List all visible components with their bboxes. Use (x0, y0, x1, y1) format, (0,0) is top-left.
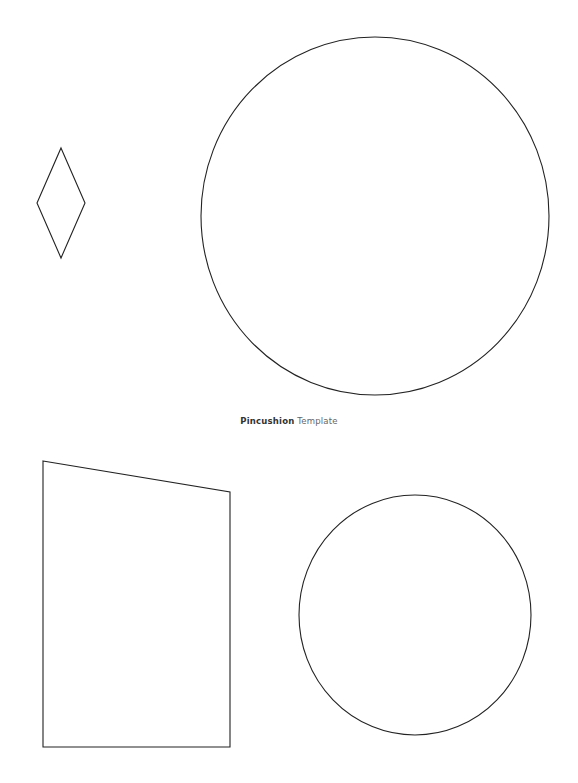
trapezoid-shape (43, 461, 230, 747)
small-circle-shape (299, 495, 531, 735)
template-caption: Pincushion Template (0, 416, 578, 426)
diamond-shape (37, 148, 85, 258)
template-canvas (0, 0, 578, 783)
caption-title-bold: Pincushion (240, 416, 294, 426)
caption-title-rest: Template (297, 416, 337, 426)
large-circle-shape (201, 37, 549, 395)
